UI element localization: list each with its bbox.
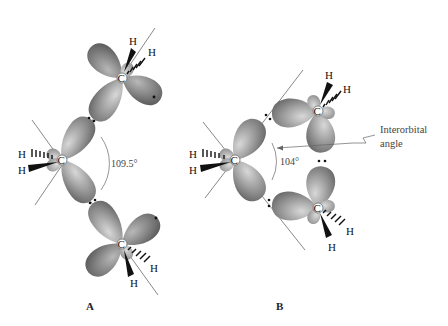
hydrogen-label: H [346, 225, 354, 237]
angle-arc [101, 137, 109, 190]
svg-text:C: C [118, 238, 125, 250]
orbital-overlap-figure: H H H H [0, 0, 448, 326]
hydrogen-label: H [328, 241, 336, 253]
svg-text:C: C [118, 72, 125, 84]
hydrogen-label: H [343, 83, 351, 95]
right-bent-bond-lobes [304, 109, 337, 209]
hydrogen-label: H [150, 262, 158, 274]
panel-label-b: B [276, 300, 284, 312]
hydrogen-label: H [18, 148, 26, 160]
lower-ch2-hydrogens: H H [320, 210, 354, 253]
wedge-bond [320, 82, 333, 105]
angle-label-104: 104° [280, 156, 299, 167]
hydrogen-label: H [18, 164, 26, 176]
hydrogen-label: H [325, 69, 333, 81]
upper-sigma-bond-lobes [51, 71, 133, 168]
callout-label-line2: angle [380, 138, 403, 149]
svg-text:C: C [314, 202, 321, 214]
interorbital-angle-callout: Interorbital angle [277, 124, 427, 151]
callout-label-line1: Interorbital [380, 124, 427, 135]
svg-text:C: C [58, 154, 65, 166]
panel-label-a: A [86, 300, 94, 312]
angle-label-109-5: 109.5° [111, 158, 138, 169]
hydrogen-label: H [148, 46, 156, 58]
arrowhead-icon [277, 146, 283, 151]
angle-arc [272, 143, 277, 180]
upper-ch2-hydrogens: H H [320, 69, 351, 107]
hydrogen-label: H [189, 164, 197, 176]
svg-text:C: C [314, 105, 321, 117]
hydrogen-label: H [189, 148, 197, 160]
svg-text:C: C [231, 154, 238, 166]
wedge-bond [320, 213, 332, 238]
panel-a: H H H H [18, 28, 167, 312]
hydrogen-label: H [129, 35, 137, 47]
hydrogen-label: H [130, 277, 138, 289]
panel-b: H H H H H [189, 69, 427, 312]
